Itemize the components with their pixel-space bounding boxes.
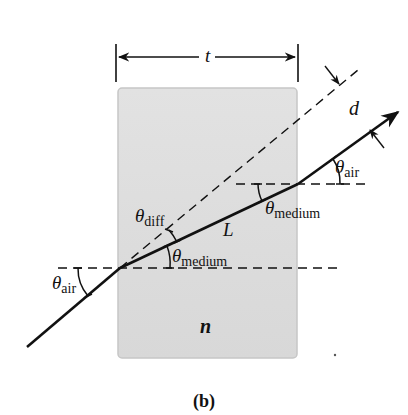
theta-air-exit-label: θair [335,157,359,180]
theta-medium-entry-label: θmedium [172,246,227,269]
stray-dot [334,354,336,356]
offset-label: d [349,98,359,118]
offset-arrow-lower [370,130,384,148]
theta-diff-label: θdiff [135,206,164,229]
path-length-label: L [223,220,234,239]
figure-caption: (b) [193,392,215,410]
thickness-label: t [203,46,212,65]
theta-air-arc-entry [78,268,88,296]
index-label: n [200,316,211,336]
offset-arrow-upper [325,66,339,84]
theta-air-entry-label: θair [52,273,76,296]
theta-medium-exit-label: θmedium [265,198,320,221]
